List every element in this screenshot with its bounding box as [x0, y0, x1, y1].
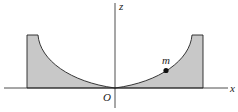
z-axis-label: z: [118, 0, 124, 12]
right-bowl-wall: [115, 35, 203, 88]
x-axis-label: x: [229, 82, 235, 94]
origin-label: O: [103, 91, 111, 103]
mass-point: [163, 68, 168, 73]
mass-label: m: [162, 54, 170, 66]
left-bowl-wall: [27, 35, 115, 88]
bowl-diagram: z x O m: [0, 0, 238, 112]
